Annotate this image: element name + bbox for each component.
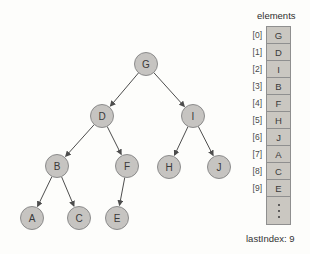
array-row: [1]D xyxy=(244,43,306,61)
tree-node-label: J xyxy=(217,162,222,173)
array-row: [4]F xyxy=(244,94,306,112)
array-row-cell: F xyxy=(266,94,291,112)
tree-node-B: B xyxy=(46,155,69,178)
array-row: [0]G xyxy=(244,26,306,44)
tree-node-H: H xyxy=(158,156,181,179)
array-row-index: [8] xyxy=(244,166,262,176)
last-index-label: lastIndex: 9 xyxy=(244,233,306,244)
tree-edge-G-I xyxy=(154,73,185,107)
tree-node-F: F xyxy=(116,155,139,178)
array-rows: [0]G[1]D[2]I[3]B[4]F[5]H[6]J[7]A[8]C[9]E xyxy=(244,26,306,197)
array-row-cell: I xyxy=(266,60,291,78)
array-row: [8]C xyxy=(244,162,306,180)
tree-edge-F-E xyxy=(120,177,125,205)
array-row: [9]E xyxy=(244,179,306,197)
tree-node-label: E xyxy=(114,213,121,224)
tree-edge-B-A xyxy=(38,176,52,206)
tree-node-label: C xyxy=(75,213,82,224)
tree-edge-I-H xyxy=(175,126,189,155)
binary-tree-array-diagram: GDIBFHJACE elements [0]G[1]D[2]I[3]B[4]F… xyxy=(0,0,310,254)
binary-tree-figure: GDIBFHJACE xyxy=(0,0,244,254)
array-row-index: [2] xyxy=(244,64,262,74)
array-row-cell: J xyxy=(266,128,291,146)
array-row-index: [6] xyxy=(244,132,262,142)
array-row-cell: C xyxy=(266,162,291,180)
tree-node-J: J xyxy=(208,156,231,179)
array-row-cell: H xyxy=(266,111,291,129)
array-row-index: [4] xyxy=(244,98,262,108)
array-row: [7]A xyxy=(244,145,306,163)
tree-node-label: H xyxy=(165,162,172,173)
tree-node-label: D xyxy=(98,111,105,122)
tree-node-G: G xyxy=(135,53,158,76)
tree-edge-I-J xyxy=(198,126,213,155)
tree-edge-D-B xyxy=(66,125,95,157)
tree-edge-G-D xyxy=(110,73,138,106)
tree-node-label: G xyxy=(142,59,150,70)
tree-edge-D-F xyxy=(107,126,121,154)
array-row: [3]B xyxy=(244,77,306,95)
array-row: [2]I xyxy=(244,60,306,78)
array-representation: elements [0]G[1]D[2]I[3]B[4]F[5]H[6]J[7]… xyxy=(244,10,306,244)
array-row-cell: B xyxy=(266,77,291,95)
array-row-cell: E xyxy=(266,179,291,197)
array-row-index: [1] xyxy=(244,47,262,57)
tree-node-label: F xyxy=(124,161,130,172)
array-row: [6]J xyxy=(244,128,306,146)
array-row-cell: G xyxy=(266,26,291,44)
array-row-index: [9] xyxy=(244,183,262,193)
array-row: [5]H xyxy=(244,111,306,129)
array-row-cell: A xyxy=(266,145,291,163)
array-row-index: [0] xyxy=(244,30,262,40)
array-row-index: [3] xyxy=(244,81,262,91)
array-row-cell: D xyxy=(266,43,291,61)
tree-node-I: I xyxy=(182,105,205,128)
tree-edge-B-C xyxy=(62,177,74,206)
tree-node-E: E xyxy=(106,207,129,230)
vertical-ellipsis-icon xyxy=(266,196,291,225)
array-row-index: [7] xyxy=(244,149,262,159)
tree-node-A: A xyxy=(21,207,44,230)
tree-node-D: D xyxy=(91,105,114,128)
tree-node-label: B xyxy=(54,161,61,172)
array-header-label: elements xyxy=(257,10,306,21)
tree-node-label: I xyxy=(192,111,195,122)
tree-node-label: A xyxy=(29,213,36,224)
tree-node-C: C xyxy=(68,207,91,230)
array-row-index: [5] xyxy=(244,115,262,125)
